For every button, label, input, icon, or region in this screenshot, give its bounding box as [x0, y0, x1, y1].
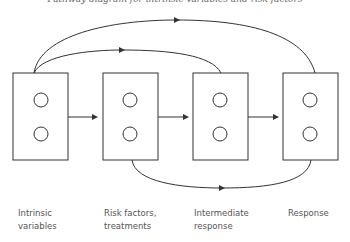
stage-box-response [283, 73, 338, 160]
node-circle [123, 127, 137, 141]
node-circle [213, 127, 227, 141]
node-circle [303, 127, 317, 141]
arc-intrinsic-to-response [34, 20, 315, 73]
node-circle [34, 127, 48, 141]
arrowhead-icon [219, 185, 225, 191]
stage-label-intrinsic: Intrinsic variables [18, 207, 57, 233]
stage-label-response: Response [288, 207, 329, 220]
stage-box-intermediate [193, 73, 248, 160]
node-circle [123, 93, 137, 107]
stage-box-risk-factors [103, 73, 158, 160]
node-circle [303, 93, 317, 107]
arrowhead-icon [174, 17, 180, 23]
label-line: Risk factors, [104, 207, 156, 220]
stage-label-intermediate: Intermediate response [194, 207, 249, 233]
arc-risk-to-response [132, 160, 311, 188]
label-line: Response [288, 207, 329, 220]
arc-intrinsic-to-intermediate [34, 50, 221, 73]
stage-label-risk-factors: Risk factors, treatments [104, 207, 156, 233]
label-line: Intermediate [194, 207, 249, 220]
node-circle [34, 93, 48, 107]
label-line: treatments [104, 220, 156, 233]
node-circle [213, 93, 227, 107]
arrowhead-icon [119, 47, 125, 53]
label-line: Intrinsic [18, 207, 57, 220]
label-line: response [194, 220, 249, 233]
pathway-diagram [0, 0, 350, 242]
stage-box-intrinsic [13, 73, 68, 160]
label-line: variables [18, 220, 57, 233]
